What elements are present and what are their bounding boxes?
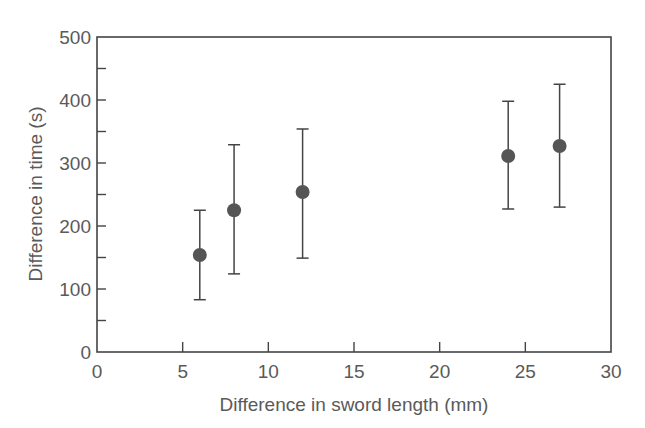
scatter-chart: 0100200300400500 051015202530 Difference… [0,0,645,428]
x-axis-ticks [183,342,526,352]
data-point [193,248,207,262]
x-tick-label: 15 [343,361,364,382]
data-point [501,149,515,163]
x-tick-label: 5 [177,361,188,382]
error-bars [194,84,566,299]
x-tick-label: 30 [600,361,621,382]
y-axis-label: Difference in time (s) [25,107,46,282]
plot-border [97,37,611,352]
data-point [553,139,567,153]
y-tick-label: 400 [59,90,91,111]
data-markers [193,139,567,262]
y-tick-label: 200 [59,216,91,237]
x-tick-label: 10 [258,361,279,382]
y-tick-label: 0 [80,342,91,363]
x-tick-label: 20 [429,361,450,382]
y-axis-tick-labels: 0100200300400500 [59,27,91,363]
x-axis-label: Difference in sword length (mm) [220,394,489,415]
y-axis-ticks [97,69,106,321]
data-point [227,203,241,217]
data-point [296,185,310,199]
y-tick-label: 100 [59,279,91,300]
y-tick-label: 500 [59,27,91,48]
x-tick-label: 0 [92,361,103,382]
plot-frame [97,37,611,352]
chart-canvas: 0100200300400500 051015202530 Difference… [0,0,645,428]
x-axis-tick-labels: 051015202530 [92,361,622,382]
y-tick-label: 300 [59,153,91,174]
x-tick-label: 25 [515,361,536,382]
